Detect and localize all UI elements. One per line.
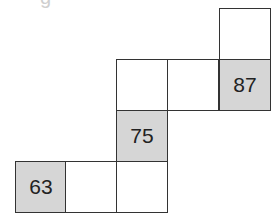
grid-cell-r3-c1 (65, 161, 117, 213)
grid-cell-r1-c4-shaded: 87 (219, 59, 271, 111)
grid-cell-r3-c0-shaded: 63 (15, 161, 67, 213)
clipped-heading-fragment: g (40, 0, 51, 9)
grid-cell-r3-c2 (116, 161, 168, 213)
grid-cell-r1-c2 (116, 59, 168, 111)
grid-cell-r2-c2-shaded: 75 (116, 110, 168, 162)
grid-cell-r1-c3 (167, 59, 219, 111)
grid-cell-r0-c4 (219, 8, 271, 60)
